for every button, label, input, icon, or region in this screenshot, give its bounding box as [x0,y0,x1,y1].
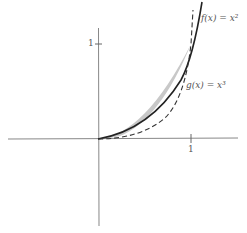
label-f: f(x) = x² [201,13,238,23]
label-g: g(x) = x³ [186,80,226,90]
x-tick-label: 1 [188,144,194,154]
area-between-curves-diagram [0,0,247,233]
shaded-region [98,44,191,139]
y-axis [99,28,100,226]
y-tick-label: 1 [88,38,94,48]
x-axis [8,138,238,139]
